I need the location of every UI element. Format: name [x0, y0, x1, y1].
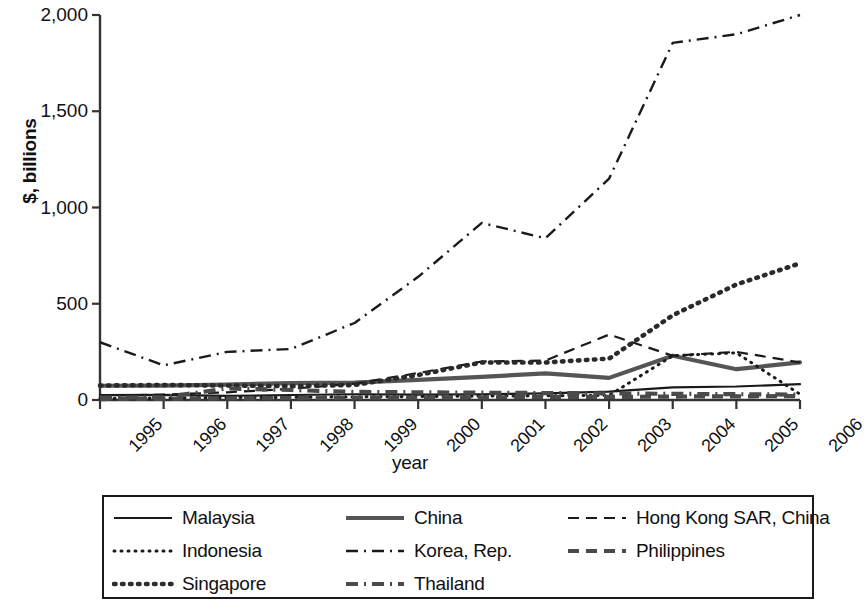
- axis-lines: [100, 15, 800, 400]
- legend-item-malaysia[interactable]: Malaysia: [112, 507, 344, 529]
- legend-item-korea-rep[interactable]: Korea, Rep.: [344, 540, 566, 562]
- legend-label: Singapore: [182, 573, 266, 595]
- series-line-korea-rep: [100, 15, 800, 365]
- legend-item-philippines[interactable]: Philippines: [566, 540, 812, 562]
- legend-item-singapore[interactable]: Singapore: [112, 573, 344, 595]
- legend-swatch-indonesia: [112, 544, 174, 558]
- legend-swatch-philippines: [566, 544, 628, 558]
- legend-swatch-korea-rep: [344, 544, 406, 558]
- legend-label: China: [414, 507, 462, 529]
- legend-label: Indonesia: [182, 540, 262, 562]
- legend-label: Thailand: [414, 573, 484, 595]
- legend-item-hong-kong-sar-china[interactable]: Hong Kong SAR, China: [566, 507, 812, 529]
- legend-swatch-malaysia: [112, 511, 174, 525]
- legend-label: Hong Kong SAR, China: [636, 507, 830, 529]
- legend-label: Korea, Rep.: [414, 540, 512, 562]
- legend-swatch-hong-kong-sar-china: [566, 511, 628, 525]
- legend-label: Malaysia: [182, 507, 255, 529]
- series-line-singapore: [100, 263, 800, 386]
- legend-item-thailand[interactable]: Thailand: [344, 573, 566, 595]
- x-axis-tick-label: 2006: [824, 414, 867, 457]
- chart-legend: MalaysiaChinaHong Kong SAR, ChinaIndones…: [102, 495, 814, 599]
- legend-swatch-thailand: [344, 577, 406, 591]
- legend-swatch-china: [344, 511, 406, 525]
- legend-label: Philippines: [636, 540, 725, 562]
- legend-item-china[interactable]: China: [344, 507, 566, 529]
- x-axis-title: year: [0, 452, 820, 474]
- legend-swatch-singapore: [112, 577, 174, 591]
- legend-item-indonesia[interactable]: Indonesia: [112, 540, 344, 562]
